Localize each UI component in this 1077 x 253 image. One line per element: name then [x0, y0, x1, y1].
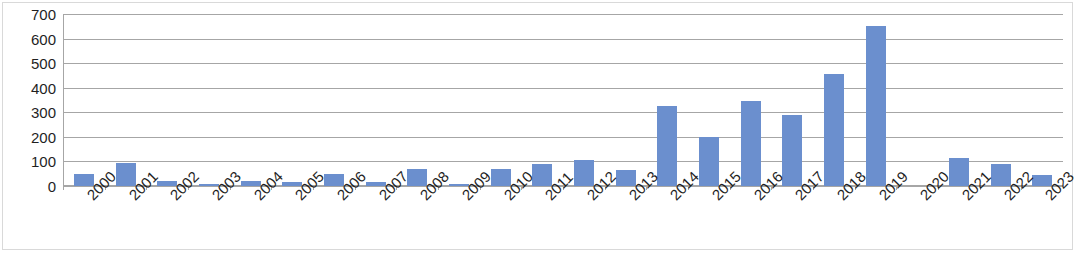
bar-slot — [1021, 14, 1063, 186]
x-axis-label-slot: 2021 — [938, 188, 980, 248]
x-axis-label-slot: 2003 — [188, 188, 230, 248]
y-axis-tick-label: 0 — [48, 179, 56, 194]
bar-slot — [980, 14, 1022, 186]
bar-slot — [646, 14, 688, 186]
x-axis-label-slot: 2005 — [271, 188, 313, 248]
bar-slot — [855, 14, 897, 186]
y-axis-tick-label: 300 — [31, 105, 56, 120]
bar[interactable] — [866, 26, 886, 186]
bar-slot — [938, 14, 980, 186]
x-axis-label-slot: 2009 — [438, 188, 480, 248]
x-axis-label-slot: 2011 — [521, 188, 563, 248]
x-axis-label-slot: 2013 — [605, 188, 647, 248]
y-axis-tick-label: 200 — [31, 129, 56, 144]
x-axis-label-slot: 2002 — [146, 188, 188, 248]
x-axis-label-slot: 2007 — [355, 188, 397, 248]
x-axis-label-slot: 2004 — [230, 188, 272, 248]
bar-slot — [188, 14, 230, 186]
bar[interactable] — [824, 74, 844, 186]
bar[interactable] — [782, 115, 802, 186]
x-axis-label-slot: 2019 — [855, 188, 897, 248]
x-axis-label-slot: 2008 — [396, 188, 438, 248]
y-axis-tick-label: 400 — [31, 80, 56, 95]
bar-slot — [688, 14, 730, 186]
bar[interactable] — [699, 137, 719, 186]
bar-slot — [813, 14, 855, 186]
bar-slot — [105, 14, 147, 186]
bar-slot — [438, 14, 480, 186]
bar-slot — [563, 14, 605, 186]
y-axis-tick-label: 700 — [31, 7, 56, 22]
y-axis-tick-label: 100 — [31, 154, 56, 169]
bar-slot — [396, 14, 438, 186]
bar[interactable] — [657, 106, 677, 186]
bar-slot — [271, 14, 313, 186]
x-axis-label-slot: 2012 — [563, 188, 605, 248]
x-axis-label-slot: 2015 — [688, 188, 730, 248]
bar-slot — [771, 14, 813, 186]
x-axis-label-slot: 2022 — [980, 188, 1022, 248]
bar-slot — [355, 14, 397, 186]
bar-slot — [521, 14, 563, 186]
x-axis: 2000200120022003200420052006200720082009… — [63, 188, 1063, 248]
bar-slot — [63, 14, 105, 186]
y-axis-tick-label: 600 — [31, 31, 56, 46]
y-axis: 0100200300400500600700 — [14, 14, 56, 186]
bar[interactable] — [741, 101, 761, 186]
x-axis-label-slot: 2014 — [646, 188, 688, 248]
x-axis-label-slot: 2016 — [730, 188, 772, 248]
x-axis-label-slot: 2020 — [896, 188, 938, 248]
bar-slot — [146, 14, 188, 186]
plot-area — [63, 14, 1063, 186]
x-axis-label-slot: 2006 — [313, 188, 355, 248]
x-axis-label-slot: 2001 — [105, 188, 147, 248]
x-axis-label-slot: 2010 — [480, 188, 522, 248]
bar-slot — [230, 14, 272, 186]
x-axis-label-slot: 2000 — [63, 188, 105, 248]
x-axis-label-slot: 2018 — [813, 188, 855, 248]
bar-chart: 0100200300400500600700 20002001200220032… — [0, 0, 1077, 253]
x-axis-label-slot: 2017 — [771, 188, 813, 248]
bar-slot — [480, 14, 522, 186]
bar-slot — [313, 14, 355, 186]
bar-slot — [896, 14, 938, 186]
bar-slot — [605, 14, 647, 186]
x-axis-label-slot: 2023 — [1021, 188, 1063, 248]
bar-slot — [730, 14, 772, 186]
y-axis-tick-label: 500 — [31, 56, 56, 71]
bar-series — [63, 14, 1063, 186]
